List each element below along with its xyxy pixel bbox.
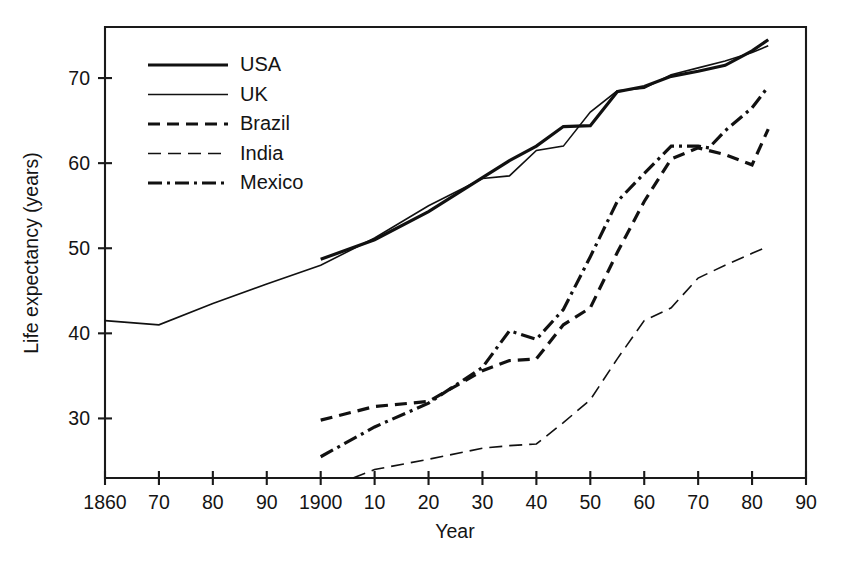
x-tick-label: 90 [795,491,817,513]
legend-label-usa: USA [240,53,282,75]
y-tick-label: 60 [68,152,90,174]
legend-label-uk: UK [240,83,268,105]
chart-legend: USAUKBrazilIndiaMexico [148,53,303,193]
x-tick-label: 20 [418,491,440,513]
x-tick-label: 40 [526,491,548,513]
legend-label-mexico: Mexico [240,171,303,193]
y-tick-label: 30 [68,407,90,429]
x-tick-label: 80 [741,491,763,513]
legend-label-brazil: Brazil [240,112,290,134]
x-tick-label: 80 [202,491,224,513]
x-tick-label: 30 [472,491,494,513]
series-line-uk [105,46,768,325]
x-tick-label: 70 [148,491,170,513]
x-axis-title: Year [435,520,475,542]
y-axis-title: Life expectancy (years) [20,152,42,354]
x-tick-label: 10 [364,491,386,513]
line-chart: 3040506070 18607080901900102030405060708… [0,0,846,562]
series-line-india [353,247,768,478]
x-tick-label: 70 [687,491,709,513]
x-tick-label: 1900 [299,491,343,513]
legend-label-india: India [240,142,284,164]
x-tick-label: 1860 [83,491,127,513]
chart-figure: 3040506070 18607080901900102030405060708… [0,0,846,562]
data-series-group [105,40,768,478]
y-tick-label: 70 [68,67,90,89]
series-line-brazil [321,129,769,420]
x-tick-label: 60 [633,491,655,513]
x-tick-label: 50 [579,491,601,513]
y-tick-label: 50 [68,237,90,259]
x-tick-label: 90 [256,491,278,513]
y-tick-label: 40 [68,322,90,344]
